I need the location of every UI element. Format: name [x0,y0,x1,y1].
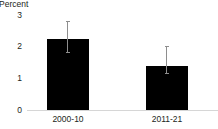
error-bar-cap-top-2000-10 [66,21,70,22]
y-axis-unit-label: Percent [0,0,28,10]
bar-2000-10 [47,39,89,110]
y-axis-tick-label-2: 2 [2,41,22,51]
error-bar-cap-bottom-2000-10 [66,52,70,53]
error-bar-cap-top-2011-21 [165,46,169,47]
y-axis-tick-label-1: 1 [2,73,22,83]
x-axis-tick-label-2000-10: 2000-10 [38,114,98,125]
bar-chart: Percent 3 2 1 0 2000-10 2011-21 [0,0,218,129]
error-bar-2011-21 [166,46,167,74]
y-axis-tick-label-0: 0 [2,105,22,115]
x-axis-baseline [27,110,218,111]
error-bar-cap-bottom-2011-21 [165,73,169,74]
x-axis-tick-label-2011-21: 2011-21 [137,114,197,125]
error-bar-2000-10 [67,21,68,53]
y-axis-tick-label-3: 3 [2,10,22,20]
